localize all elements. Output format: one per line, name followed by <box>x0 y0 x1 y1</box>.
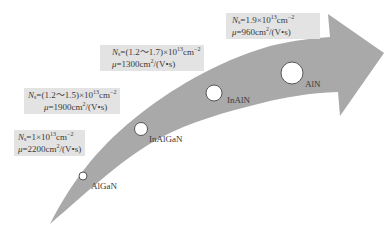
ns-unit: cm <box>277 15 288 25</box>
ns-unit: cm <box>183 47 194 57</box>
ns-unit-exponent: −2 <box>194 46 200 52</box>
stage-marker-inalgan <box>135 123 148 136</box>
mu-unit: /(V•s) <box>269 27 291 37</box>
barrier-material-evolution-diagram: AlGaN InAlGaN InAlN AlN Ns=1×1013cm−2 μ=… <box>0 0 391 238</box>
property-box-inaln: Ns=(1.2～1.7)×1013cm−2 μ=1300cm2/(V•s) <box>100 45 204 71</box>
mu-unit: /(V•s) <box>86 102 108 112</box>
mu-value: =1300cm <box>117 59 151 69</box>
mu-unit: /(V•s) <box>60 144 82 154</box>
mobility-line: μ=2200cm2/(V•s) <box>18 143 81 155</box>
sheet-density-line: Ns=(1.2～1.7)×1013cm−2 <box>104 46 200 58</box>
sheet-density-line: Ns=(1.2～1.5)×1013cm−2 <box>28 89 116 101</box>
sheet-density-line: Ns=1×1013cm−2 <box>18 131 81 143</box>
ns-unit-exponent: −2 <box>67 131 73 137</box>
ns-unit: cm <box>56 132 67 142</box>
ns-value: =(1.2～1.7)×10 <box>120 47 177 57</box>
property-box-aln: Ns=1.9×1013cm−2 μ=960cm2/(V•s) <box>226 13 320 39</box>
ns-value: =(1.2～1.5)×10 <box>36 90 93 100</box>
material-label-inaln: InAlN <box>227 95 250 105</box>
property-box-algan: Ns=1×1013cm−2 μ=2200cm2/(V•s) <box>14 130 85 156</box>
sheet-density-line: Ns=1.9×1013cm−2 <box>230 14 316 26</box>
ns-value: =1.9×10 <box>240 15 270 25</box>
material-label-algan: AlGaN <box>91 181 117 191</box>
mu-value: =2200cm <box>23 144 57 154</box>
mu-unit: /(V•s) <box>154 59 176 69</box>
property-box-inalgan: Ns=(1.2～1.5)×1013cm−2 μ=1900cm2/(V•s) <box>24 88 120 114</box>
mobility-line: μ=1900cm2/(V•s) <box>28 101 116 113</box>
ns-value: =1×10 <box>26 132 50 142</box>
stage-marker-aln <box>281 62 303 84</box>
material-label-inalgan: InAlGaN <box>149 134 183 144</box>
ns-unit: cm <box>99 90 110 100</box>
ns-unit-exponent: −2 <box>110 89 116 95</box>
ns-unit-exponent: −2 <box>288 14 294 20</box>
mobility-line: μ=1300cm2/(V•s) <box>104 58 200 70</box>
stage-marker-inaln <box>206 85 222 101</box>
stage-marker-algan <box>79 172 87 180</box>
mobility-line: μ=960cm2/(V•s) <box>230 26 316 38</box>
material-label-aln: AlN <box>305 79 321 89</box>
mu-value: =960cm <box>237 27 267 37</box>
evolution-arrow <box>0 0 391 238</box>
mu-value: =1900cm <box>49 102 83 112</box>
